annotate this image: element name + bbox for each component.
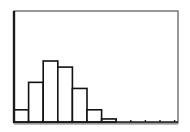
- histogram-bar: [87, 110, 102, 122]
- histogram-bar: [58, 67, 73, 122]
- histogram-chart: [0, 0, 190, 132]
- histogram-bar: [14, 110, 29, 122]
- histogram-bar: [29, 82, 44, 122]
- histogram-bar: [43, 61, 58, 122]
- histogram-bar: [72, 88, 87, 122]
- histogram-bars: [14, 61, 116, 122]
- calculator-screen: [0, 0, 190, 132]
